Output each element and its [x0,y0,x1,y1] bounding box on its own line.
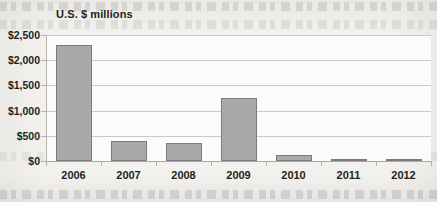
x-axis-label-2012: 2012 [391,169,415,181]
x-axis-tick [431,161,432,166]
bar-2006[interactable] [56,45,92,161]
x-axis-tick [376,161,377,166]
y-axis-label: $0 [0,155,40,167]
x-axis-tick [46,161,47,166]
x-axis-tick [101,161,102,166]
bar-2009[interactable] [221,98,257,161]
y-axis-label: $1,500 [0,79,40,91]
x-axis-tick [266,161,267,166]
x-axis-line [46,161,431,162]
bar-2008[interactable] [166,143,202,161]
x-axis-tick [321,161,322,166]
y-axis-label: $500 [0,130,40,142]
x-axis-label-2008: 2008 [171,169,195,181]
chart-title: U.S. $ millions [56,8,133,20]
x-axis-label-2011: 2011 [337,169,361,181]
y-axis-label: $1,000 [0,105,40,117]
y-axis-label: $2,000 [0,54,40,66]
bar-2007[interactable] [111,141,147,161]
x-axis-label-2007: 2007 [116,169,140,181]
x-axis-label-2010: 2010 [281,169,305,181]
y-axis-labels-group: $0$500$1,000$1,500$2,000$2,500 [0,0,40,202]
bar-chart: U.S. $ millions $0$500$1,000$1,500$2,000… [0,0,437,202]
x-axis-label-2009: 2009 [226,169,250,181]
x-axis-tick [211,161,212,166]
x-axis-tick [156,161,157,166]
x-axis-label-2006: 2006 [61,169,85,181]
y-axis-label: $2,500 [0,29,40,41]
bars-group [46,35,431,161]
